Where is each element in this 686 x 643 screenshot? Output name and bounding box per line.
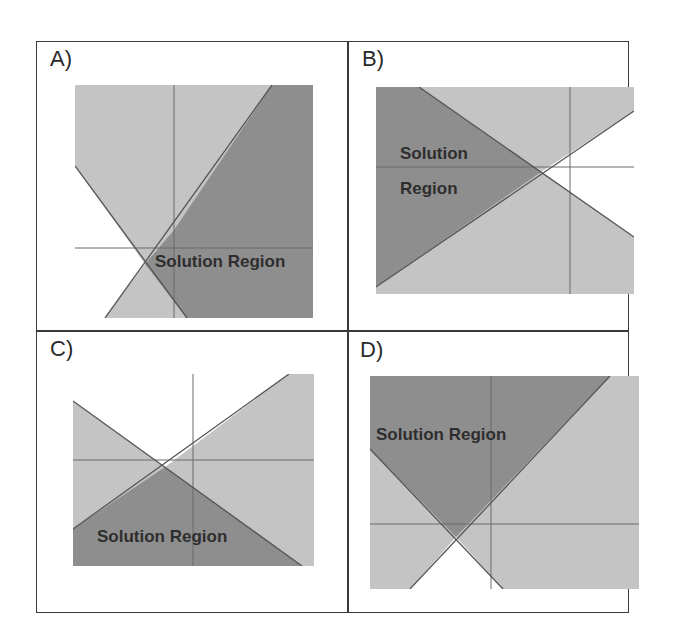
panel-c-label: C) [50,336,73,362]
panel-b-graph: Solution Region [376,87,634,294]
panel-a-label: A) [50,46,72,72]
grid-vertical-divider [347,41,349,613]
panel-b-solution-label-line2: Region [400,179,458,198]
panel-b-solution-label-line1: Solution [400,144,468,163]
panel-d-graph: Solution Region [370,376,639,589]
panel-a-solution-label: Solution Region [155,252,285,271]
panel-b-label: B) [362,46,384,72]
panel-c-solution-label: Solution Region [97,527,227,546]
panel-d-label: D) [360,337,383,363]
grid-horizontal-divider [36,330,629,332]
panel-c-graph: Solution Region [73,374,314,566]
panel-a-graph: Solution Region [75,85,313,318]
panel-d-solution-label: Solution Region [376,425,506,444]
